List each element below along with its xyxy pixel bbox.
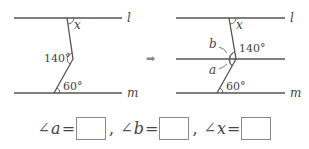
equals-sign: = xyxy=(145,119,158,138)
answer-box-b[interactable] xyxy=(159,117,189,140)
var-b: b xyxy=(134,119,144,138)
label-140-left: 140° xyxy=(44,52,71,65)
label-m-left: m xyxy=(127,86,138,100)
angle-arc-60 xyxy=(220,88,223,93)
angle-symbol: ∠ xyxy=(120,119,133,137)
angle-symbol: ∠ xyxy=(203,119,216,137)
equals-sign: = xyxy=(62,119,75,138)
label-x-right: x xyxy=(236,18,243,32)
var-x: x xyxy=(217,119,226,138)
answer-box-a[interactable] xyxy=(76,117,106,140)
label-x-left: x xyxy=(74,18,81,32)
pointer-a xyxy=(219,64,227,69)
var-a: a xyxy=(51,119,61,138)
separator: , xyxy=(192,119,197,138)
answer-x: ∠ x = xyxy=(203,117,271,140)
answer-row: ∠ a = , ∠ b = , ∠ x = xyxy=(0,114,309,142)
separator: , xyxy=(109,119,114,138)
label-l-left: l xyxy=(127,11,131,25)
equals-sign: = xyxy=(227,119,240,138)
label-b: b xyxy=(209,37,217,51)
angle-symbol: ∠ xyxy=(38,119,51,137)
arrow-right-icon: ➡ xyxy=(146,52,155,65)
answer-box-x[interactable] xyxy=(241,117,271,140)
answer-b: ∠ b = , xyxy=(120,117,203,140)
answer-a: ∠ a = , xyxy=(38,117,121,140)
label-a: a xyxy=(209,63,216,77)
label-140-right: 140° xyxy=(239,42,266,55)
label-60-right: 60° xyxy=(226,80,246,93)
geometry-figure: l m x 140° 60° ➡ l m x 140° b a 60° xyxy=(0,0,309,110)
label-60-left: 60° xyxy=(63,80,83,93)
pointer-b xyxy=(219,47,227,53)
label-m-right: m xyxy=(290,86,301,100)
label-l-right: l xyxy=(290,11,294,25)
angle-arc-60 xyxy=(57,88,60,93)
